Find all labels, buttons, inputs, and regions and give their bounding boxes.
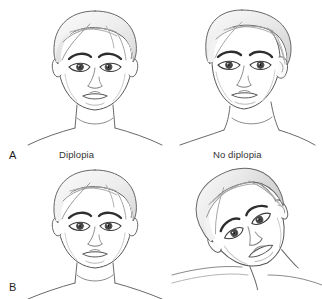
panel-letter-b: B <box>9 282 17 293</box>
illustration-upright-head-diplopia <box>20 2 170 147</box>
eye-right <box>100 222 121 230</box>
column-label-diplopia: Diplopia <box>59 150 94 160</box>
neck-and-shoulders <box>28 105 162 145</box>
shoulders <box>172 266 322 285</box>
column-label-no-diplopia: No diplopia <box>213 150 262 160</box>
illustration-tilted-head-no-diplopia <box>172 163 322 299</box>
illustration-turned-head-no-diplopia <box>172 2 322 147</box>
illustration-upright-head-panel-b <box>20 163 170 299</box>
eye-right <box>100 63 121 71</box>
eye-right <box>250 61 271 69</box>
panel-letter-a: A <box>9 150 17 161</box>
